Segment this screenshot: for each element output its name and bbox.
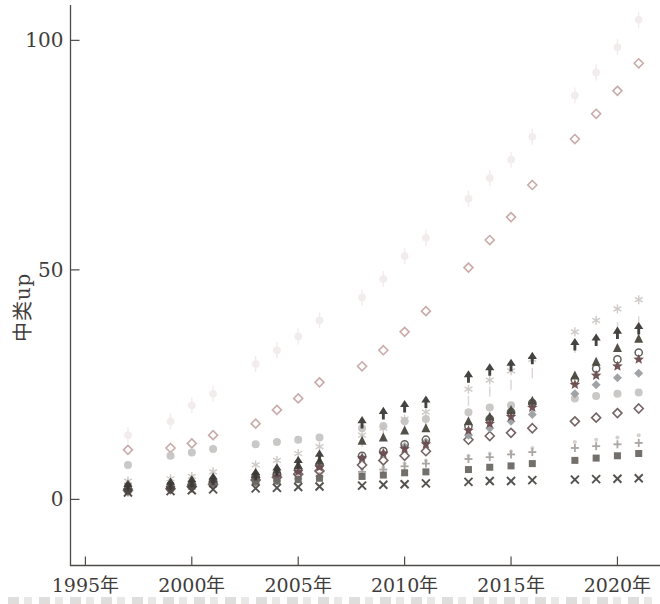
series-vline-light [128,316,639,488]
series-ghost-circle [124,12,642,443]
cutoff-caption-fragment [8,597,652,604]
x-tick-label: 2000年 [158,574,225,596]
x-tick-label: 2010年 [371,574,438,596]
chart-canvas: 0501001995年2000年2005年2010年2015年2020年 [0,0,660,604]
x-tick-label: 2015年 [477,574,544,596]
x-tick-label: 1995年 [52,574,119,596]
y-axis-label: 中类up [7,248,36,368]
y-tick-label: 50 [38,258,63,282]
x-tick-label: 2020年 [584,574,651,596]
y-tick-label: 0 [51,487,64,511]
x-tick-label: 2005年 [265,574,332,596]
series-open-diamond-salmon [123,59,643,455]
y-tick-label: 100 [25,28,63,52]
scatter-figure: 0501001995年2000年2005年2010年2015年2020年 中类u… [0,0,660,604]
